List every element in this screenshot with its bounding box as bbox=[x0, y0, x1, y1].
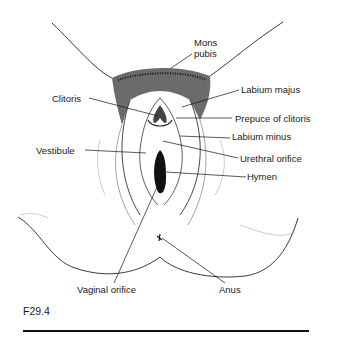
label-vestibule: Vestibule bbox=[36, 145, 75, 156]
label-urethral-orifice: Urethral orifice bbox=[240, 153, 302, 164]
label-mons-pubis-line2: pubis bbox=[194, 48, 217, 59]
label-mons-pubis-line1: Mons bbox=[194, 37, 217, 48]
vaginal-orifice-shape bbox=[154, 150, 166, 193]
label-vaginal-orifice: Vaginal orifice bbox=[77, 284, 136, 295]
label-anus: Anus bbox=[219, 284, 241, 295]
label-clitoris: Clitoris bbox=[52, 93, 81, 104]
label-labium-minus: Labium minus bbox=[232, 131, 291, 142]
buttocks-outline bbox=[18, 217, 298, 277]
label-labium-majus: Labium majus bbox=[241, 84, 300, 95]
figure-caption: F29.4 bbox=[23, 305, 50, 317]
anatomy-illustration bbox=[0, 0, 350, 337]
anus-mark bbox=[157, 234, 162, 241]
caption-rule bbox=[23, 330, 309, 332]
label-prepuce-of-clitoris: Prepuce of clitoris bbox=[235, 113, 311, 124]
label-hymen: Hymen bbox=[247, 171, 277, 182]
